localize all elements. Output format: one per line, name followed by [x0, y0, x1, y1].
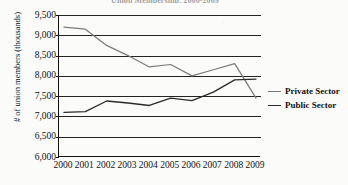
y-axis-tick-label: 7,000 — [12, 112, 56, 122]
y-axis-tick-labels: 9,5009,0008,5008,0007,5007,0006,5006,000 — [12, 0, 56, 185]
legend-item-private-sector: Private Sector — [268, 84, 348, 98]
y-axis-tick-label: 9,500 — [12, 11, 56, 21]
legend-item-public-sector: Public Sector — [268, 98, 348, 112]
series-line-private-sector — [64, 27, 256, 98]
x-axis-tick-label: 2005 — [160, 160, 179, 171]
chart-title: Union Membership, 2000-2009 — [70, 0, 260, 3]
x-axis-tick-label: 2008 — [224, 160, 243, 171]
x-axis-tick-label: 2000 — [54, 160, 73, 171]
x-axis-tick-label: 2003 — [118, 160, 137, 171]
series-line-public-sector — [64, 79, 256, 112]
series-layer — [59, 15, 261, 157]
legend-label-private-sector: Private Sector — [285, 86, 340, 96]
y-axis-tick-label: 8,000 — [12, 71, 56, 81]
x-axis-tick-label: 2001 — [75, 160, 94, 171]
y-axis-tick-label: 6,000 — [12, 153, 56, 163]
legend-swatch-public-sector — [268, 105, 281, 106]
x-axis-tick-label: 2007 — [203, 160, 222, 171]
x-axis-tick-label: 2002 — [96, 160, 115, 171]
union-membership-line-chart: Union Membership, 2000-2009 # of union m… — [0, 0, 348, 185]
y-axis-tick-label: 8,500 — [12, 51, 56, 61]
chart-legend: Private Sector Public Sector — [268, 84, 348, 112]
y-axis-tick-label: 9,000 — [12, 31, 56, 41]
x-axis-tick-label: 2004 — [139, 160, 158, 171]
legend-label-public-sector: Public Sector — [285, 100, 336, 110]
x-axis-tick-label: 2006 — [182, 160, 201, 171]
legend-swatch-private-sector — [268, 91, 281, 92]
x-axis-tick-labels: 2000200120022003200420052006200720082009 — [58, 160, 260, 176]
x-axis-tick-label: 2009 — [246, 160, 265, 171]
y-axis-tick-mark — [56, 157, 59, 158]
y-axis-tick-label: 7,500 — [12, 92, 56, 102]
y-axis-tick-label: 6,500 — [12, 132, 56, 142]
plot-area — [58, 15, 260, 157]
